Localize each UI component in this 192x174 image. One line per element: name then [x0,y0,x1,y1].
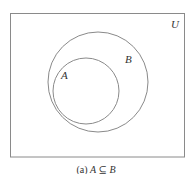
set-a-label: A [61,70,68,81]
caption-prefix: (a) [76,164,87,174]
universe-rectangle [11,14,185,158]
universe-label: U [171,19,179,30]
set-a-circle [53,58,119,124]
set-b-label: B [125,54,132,65]
caption-set-b: B [110,164,116,174]
caption-set-a: A [90,164,96,174]
figure-caption: (a) A ⊆ B [0,164,192,174]
caption-subset-symbol: ⊆ [99,164,107,174]
set-b-circle [48,32,148,132]
venn-diagram [0,0,192,174]
